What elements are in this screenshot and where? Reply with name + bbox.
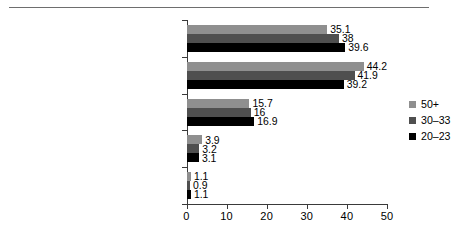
y-axis-tick — [182, 130, 187, 131]
chart-figure: 01020304050 Own the car, even if it's mo… — [0, 0, 465, 234]
bar — [187, 117, 255, 126]
bar — [187, 153, 199, 162]
x-axis-tick-label: 20 — [247, 210, 287, 222]
legend-item-30-33[interactable]: 30–33 — [409, 112, 450, 128]
chart-legend: 50+ 30–33 20–23 — [409, 96, 450, 144]
legend-swatch-icon-50plus — [409, 101, 416, 108]
x-axis-tick — [387, 204, 388, 209]
bar — [187, 80, 344, 89]
x-axis-tick — [227, 204, 228, 209]
legend-swatch-icon-30-33 — [409, 117, 416, 124]
legend-item-50plus[interactable]: 50+ — [409, 96, 450, 112]
x-axis-tick-label: 30 — [287, 210, 327, 222]
bar — [187, 181, 191, 190]
x-axis-tick — [187, 204, 188, 209]
top-divider-rule — [9, 7, 429, 8]
y-axis-tick — [182, 94, 187, 95]
y-axis-tick — [182, 167, 187, 168]
bar — [187, 144, 200, 153]
bar-value-label: 3.1 — [202, 154, 216, 164]
bar — [187, 108, 251, 117]
x-axis-tick-label: 50 — [367, 210, 407, 222]
x-axis-tick — [307, 204, 308, 209]
legend-label-50plus: 50+ — [421, 98, 439, 110]
x-axis-tick-label: 40 — [327, 210, 367, 222]
legend-label-30-33: 30–33 — [421, 114, 450, 126]
x-axis-tick — [347, 204, 348, 209]
x-axis-tick-label: 0 — [167, 210, 207, 222]
bar-value-label: 1.1 — [194, 190, 208, 200]
legend-item-20-23[interactable]: 20–23 — [409, 128, 450, 144]
bar — [187, 34, 339, 43]
legend-label-20-23: 20–23 — [421, 130, 450, 142]
bar — [187, 172, 191, 181]
bar — [187, 25, 328, 34]
bar — [187, 62, 364, 71]
bar — [187, 43, 346, 52]
bar-value-label: 39.6 — [348, 43, 368, 53]
legend-swatch-icon-20-23 — [409, 133, 416, 140]
bar-value-label: 16.9 — [257, 117, 277, 127]
bar — [187, 71, 355, 80]
bar — [187, 99, 250, 108]
x-axis-tick-label: 10 — [207, 210, 247, 222]
bar — [187, 135, 203, 144]
y-axis-tick — [182, 57, 187, 58]
bar — [187, 190, 191, 199]
bar-value-label: 39.2 — [347, 80, 367, 90]
x-axis-tick — [267, 204, 268, 209]
y-axis-tick — [182, 20, 187, 21]
x-axis-line — [187, 204, 388, 205]
